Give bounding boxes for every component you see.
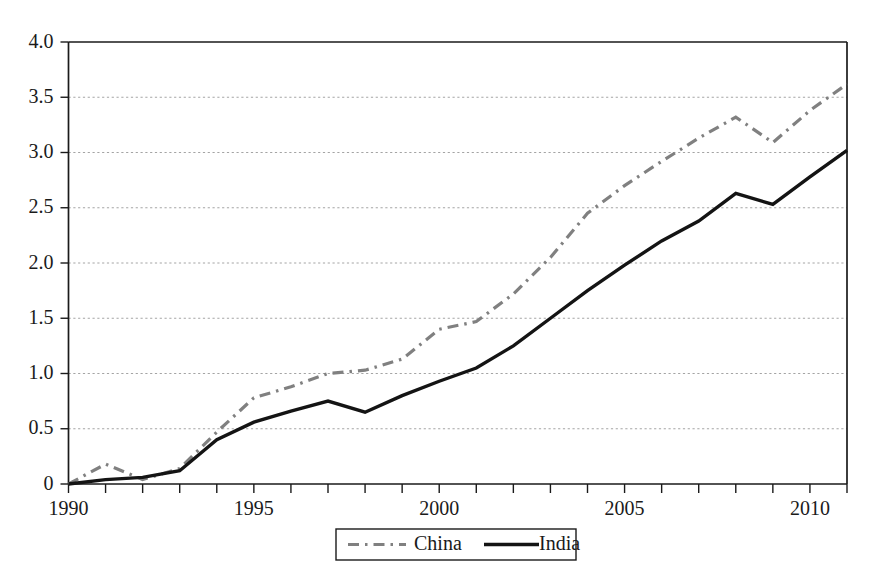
x-tick-label: 1995 — [234, 497, 274, 519]
y-tick-label: 0 — [44, 472, 54, 494]
legend-label-china: China — [414, 532, 462, 554]
series-line-china — [69, 84, 848, 484]
y-tick-label: 1.0 — [29, 361, 54, 383]
legend-entries: ChinaIndia — [348, 532, 580, 554]
x-tick-label: 2000 — [419, 497, 459, 519]
x-tick-label: 1990 — [49, 497, 89, 519]
series-line-india — [69, 150, 848, 484]
legend-label-india: India — [539, 532, 580, 554]
y-tick-label: 2.0 — [29, 251, 54, 273]
y-axis-tick-labels: 00.51.01.52.02.53.03.54.0 — [29, 30, 54, 494]
y-tick-label: 3.5 — [29, 85, 54, 107]
x-tick-label: 2010 — [790, 497, 830, 519]
y-axis-ticks — [61, 42, 69, 484]
x-tick-label: 2005 — [605, 497, 645, 519]
gridlines — [69, 97, 848, 429]
line-chart: 00.51.01.52.02.53.03.54.0 19901995200020… — [0, 0, 869, 587]
x-axis-tick-labels: 19901995200020052010 — [49, 497, 830, 519]
x-axis-ticks — [69, 484, 848, 493]
y-tick-label: 2.5 — [29, 195, 54, 217]
y-tick-label: 1.5 — [29, 306, 54, 328]
chart-figure: 00.51.01.52.02.53.03.54.0 19901995200020… — [0, 0, 869, 587]
chart-legend: ChinaIndia — [336, 529, 580, 560]
y-tick-label: 3.0 — [29, 140, 54, 162]
y-tick-label: 0.5 — [29, 416, 54, 438]
y-tick-label: 4.0 — [29, 30, 54, 52]
